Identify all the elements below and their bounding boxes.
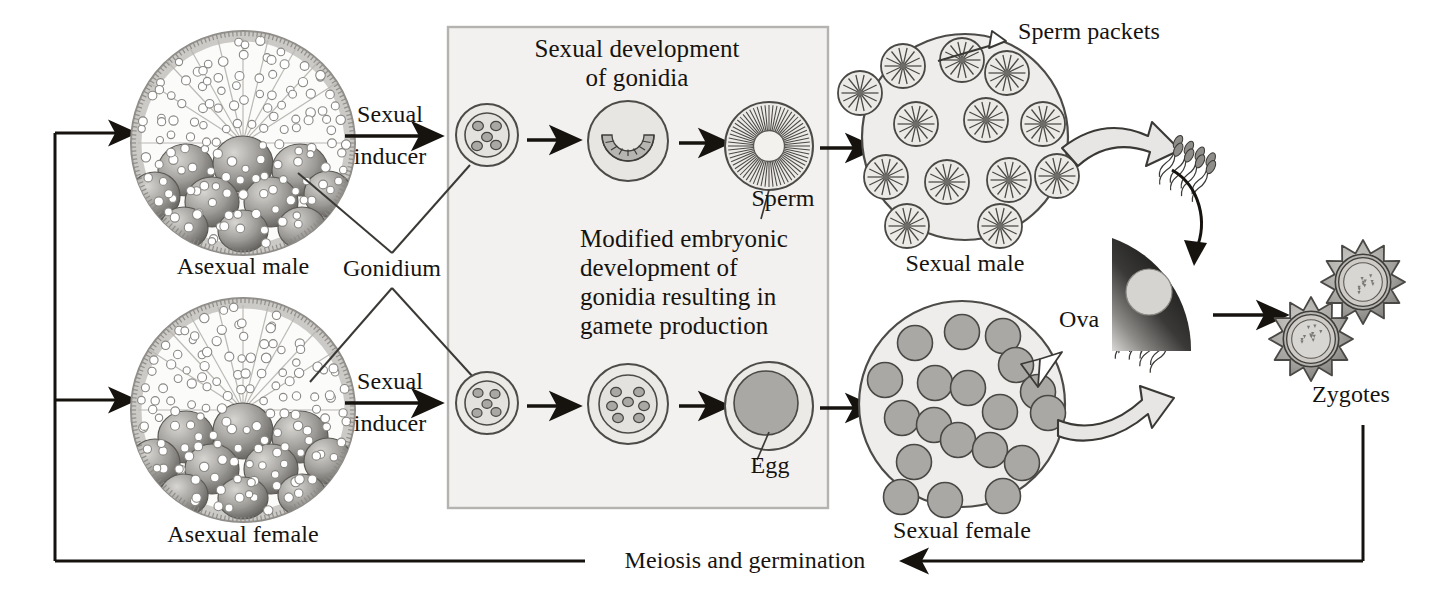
asexual-male-spheroid	[129, 29, 358, 258]
arrow-sperm-to-egg	[1172, 170, 1207, 266]
label-sexual-inducer-top-line2: inducer	[354, 143, 427, 170]
gonidium-male-stage2	[588, 101, 668, 181]
label-sperm: Sperm	[751, 185, 814, 212]
label-sperm-packets: Sperm packets	[1018, 18, 1160, 45]
arrow-ova-release	[1058, 386, 1174, 441]
label-modified-embryonic-line4: gamete production	[580, 312, 768, 340]
label-asexual-female: Asexual female	[167, 521, 318, 548]
label-sexual-development-line1: Sexual development	[534, 35, 739, 63]
sexual-male-spheroid	[838, 31, 1079, 248]
zygote-lower	[1269, 297, 1353, 381]
label-sexual-inducer-bottom-line1: Sexual	[357, 368, 423, 395]
label-egg: Egg	[751, 452, 790, 479]
label-zygotes: Zygotes	[1312, 381, 1390, 408]
label-gonidium: Gonidium	[343, 255, 441, 282]
label-sexual-development-line2: of gonidia	[585, 64, 688, 92]
label-sexual-inducer-top-line1: Sexual	[357, 101, 423, 128]
asexual-female-spheroid	[129, 296, 358, 525]
zygote-upper	[1321, 240, 1405, 324]
label-sexual-female: Sexual female	[893, 517, 1031, 544]
label-asexual-male: Asexual male	[177, 253, 310, 280]
label-ova: Ova	[1059, 306, 1099, 333]
gonidium-female-stage2	[588, 364, 668, 444]
label-meiosis-and-germination: Meiosis and germination	[625, 547, 866, 574]
gonidium-female-stage1	[456, 372, 518, 434]
label-sexual-male: Sexual male	[905, 250, 1024, 277]
label-modified-embryonic-line1: Modified embryonic	[580, 225, 788, 253]
label-modified-embryonic-line2: development of	[580, 254, 738, 282]
fertilization-wedge	[1112, 238, 1191, 351]
volvox-life-cycle-diagram: Asexual male Asexual female Sexual induc…	[0, 0, 1444, 602]
label-sexual-inducer-bottom-line2: inducer	[354, 410, 427, 437]
gonidium-male-stage1	[456, 104, 518, 166]
sexual-female-spheroid	[859, 301, 1066, 518]
label-modified-embryonic-line3: gonidia resulting in	[580, 283, 776, 311]
arrow-sperm-release	[1062, 122, 1180, 166]
